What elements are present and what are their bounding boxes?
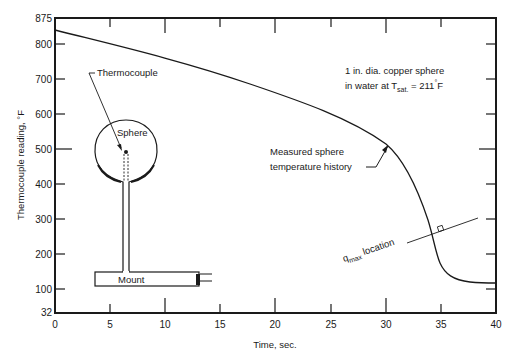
y-tick-600: 600 (35, 109, 52, 120)
x-ticks-top (110, 18, 441, 33)
sphere-label: Sphere (117, 127, 148, 138)
mount-end-cap (196, 274, 200, 285)
y-tick-700: 700 (35, 74, 52, 85)
curve-label-line-2: temperature history (270, 161, 352, 172)
x-tick-5: 5 (107, 319, 113, 330)
qmax-marker (437, 225, 443, 231)
sphere-shading-right (131, 165, 154, 182)
apparatus-diagram: Thermocouple Sphere Mount (89, 67, 212, 286)
x-axis-label: Time, sec. (253, 339, 296, 350)
x-tick-15: 15 (214, 319, 226, 330)
x-tick-labels: 0 5 10 15 20 25 30 35 40 (52, 319, 502, 330)
sphere-outline (95, 120, 157, 277)
y-tick-400: 400 (35, 179, 52, 190)
y-tick-32: 32 (41, 307, 53, 318)
y-tick-875: 875 (35, 13, 52, 24)
mount-lead-wires (198, 274, 212, 283)
x-tick-10: 10 (159, 319, 171, 330)
x-tick-35: 35 (435, 319, 447, 330)
y-tick-labels: 32 100 200 300 400 500 600 700 800 875 (35, 13, 52, 318)
mount-block (95, 272, 199, 286)
thermocouple-junction (124, 150, 128, 154)
x-ticks-bottom (110, 298, 441, 313)
y-axis-label: Thermocouple reading, °F (15, 110, 26, 220)
x-tick-0: 0 (52, 319, 58, 330)
mount-label: Mount (118, 274, 145, 285)
curve-label-line-1: Measured sphere (270, 146, 344, 157)
qmax-label: qmax location (341, 236, 396, 266)
y-tick-500: 500 (35, 144, 52, 155)
x-tick-20: 20 (269, 319, 281, 330)
y-tick-800: 800 (35, 39, 52, 50)
y-tick-100: 100 (35, 284, 52, 295)
chart-figure: 32 100 200 300 400 500 600 700 800 875 0… (0, 0, 511, 363)
y-tick-300: 300 (35, 214, 52, 225)
x-tick-25: 25 (325, 319, 337, 330)
x-tick-40: 40 (490, 319, 502, 330)
y-ticks-left (55, 44, 72, 289)
y-ticks-right (479, 44, 496, 289)
arrow-head-icon (382, 145, 388, 153)
x-tick-30: 30 (380, 319, 392, 330)
y-tick-200: 200 (35, 249, 52, 260)
info-line-2: in water at Tsat. = 211°F (345, 79, 443, 93)
y-axis-label-main: Thermocouple reading, (15, 120, 26, 220)
thermocouple-arrow-icon (117, 144, 122, 151)
info-line-1: 1 in. dia. copper sphere (345, 65, 444, 76)
sphere-shading-left (98, 165, 121, 182)
thermocouple-label: Thermocouple (97, 67, 158, 78)
y-axis-label-unit: °F (15, 110, 26, 120)
